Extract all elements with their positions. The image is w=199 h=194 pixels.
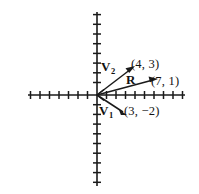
vector-v1-coordinate-label: (3, −2) (124, 105, 160, 118)
vector-v2-label: V2 (101, 60, 115, 73)
vector-v1-label-subscript: 1 (109, 110, 113, 120)
vector-r-coordinate-label: (7, 1) (151, 75, 179, 88)
vector-v2-label-subscript: 2 (111, 66, 115, 76)
vector-v1-label-text: V (99, 103, 108, 118)
vector-diagram: V2 (4, 3) R (7, 1) V1 (3, −2) (0, 0, 199, 194)
coordinate-plane (0, 0, 199, 194)
vector-r-label: R (126, 73, 135, 86)
vector-v2-label-text: V (101, 59, 110, 74)
vector-v2-coordinate-label: (4, 3) (131, 58, 159, 71)
vector-v1-label: V1 (99, 104, 113, 117)
